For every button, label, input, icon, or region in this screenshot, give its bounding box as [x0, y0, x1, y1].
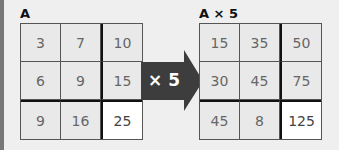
matrix-result-cell-highlight: 125	[280, 100, 321, 139]
matrix-a-cell: 15	[101, 62, 142, 100]
matrix-result-cell: 30	[200, 62, 240, 100]
matrix-result-grid: 15 35 50 30 45 75 45 8 125	[199, 23, 322, 140]
matrix-result-cell: 45	[200, 100, 240, 139]
matrix-a-cell: 3	[21, 24, 61, 62]
operation-label: × 5	[148, 70, 180, 90]
matrix-a-cell: 6	[21, 62, 61, 100]
matrix-a-title: A	[20, 6, 30, 21]
matrix-a-cell: 7	[61, 24, 101, 62]
matrix-a-cell: 9	[21, 100, 61, 139]
matrix-result-cell: 50	[280, 24, 321, 62]
matrix-a-grid: 3 7 10 6 9 15 9 16 25	[20, 23, 143, 140]
matrix-result-cell: 8	[240, 100, 280, 139]
matrix-a-cell: 9	[61, 62, 101, 100]
matrix-a-cell-highlight: 25	[101, 100, 142, 139]
matrix-result-cell: 45	[240, 62, 280, 100]
matrix-result-cell: 35	[240, 24, 280, 62]
matrix-result-title: A × 5	[199, 6, 238, 21]
matrix-result-cell: 75	[280, 62, 321, 100]
left-accent-bar	[0, 0, 4, 150]
matrix-result-cell: 15	[200, 24, 240, 62]
matrix-a-cell: 16	[61, 100, 101, 139]
matrix-a-cell: 10	[101, 24, 142, 62]
